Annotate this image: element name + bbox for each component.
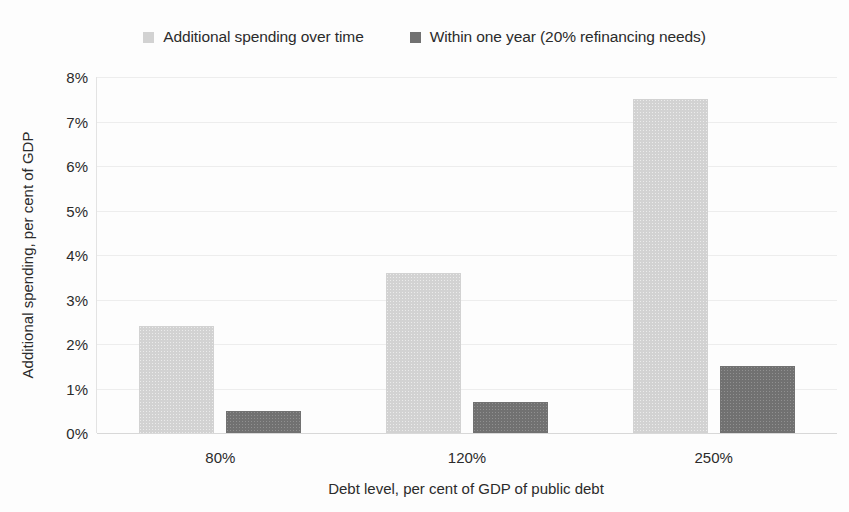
chart-legend: Additional spending over time Within one… (0, 28, 849, 46)
y-axis-title: Additional spending, per cent of GDP (14, 65, 40, 445)
legend-swatch-icon (410, 32, 421, 43)
bar (720, 366, 795, 433)
legend-swatch-icon (143, 32, 154, 43)
gridline (97, 300, 837, 301)
x-axis-title: Debt level, per cent of GDP of public de… (96, 480, 836, 497)
gridline (97, 255, 837, 256)
y-axis-tick-label: 5% (66, 202, 88, 219)
y-axis-tick-label: 8% (66, 69, 88, 86)
axis-baseline (97, 433, 837, 434)
legend-entry-within-one-year[interactable]: Within one year (20% refinancing needs) (410, 28, 706, 46)
gridline (97, 122, 837, 123)
x-axis-tick-label: 250% (694, 449, 732, 466)
y-axis-tick-label: 0% (66, 425, 88, 442)
bar (226, 411, 301, 433)
legend-label: Within one year (20% refinancing needs) (430, 28, 706, 46)
y-axis-tick-label: 7% (66, 113, 88, 130)
bar (473, 402, 548, 433)
legend-label: Additional spending over time (163, 28, 363, 46)
plot-area: 0%1%2%3%4%5%6%7%8%80%120%250% (96, 77, 837, 433)
y-axis-tick-label: 1% (66, 380, 88, 397)
y-axis-tick-label: 2% (66, 336, 88, 353)
bar (139, 326, 214, 433)
x-axis-tick-label: 120% (448, 449, 486, 466)
y-axis-tick-label: 3% (66, 291, 88, 308)
bar (633, 99, 708, 433)
x-axis-tick-label: 80% (205, 449, 235, 466)
y-axis-tick-label: 4% (66, 247, 88, 264)
y-axis-tick-label: 6% (66, 158, 88, 175)
bar-chart: Additional spending over time Within one… (0, 0, 849, 512)
gridline (97, 211, 837, 212)
legend-entry-additional-spending-over-time[interactable]: Additional spending over time (143, 28, 363, 46)
gridline (97, 77, 837, 78)
gridline (97, 166, 837, 167)
bar (386, 273, 461, 433)
